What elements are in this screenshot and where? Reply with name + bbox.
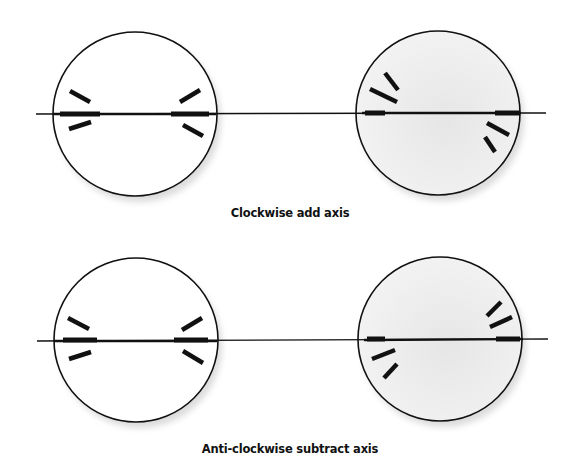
circle-before [53,32,221,202]
panel-clockwise-add [36,31,546,202]
circle-after [356,31,524,201]
panel-anticlockwise-subtract [37,257,548,428]
diagram-canvas [0,0,580,472]
circle-after [358,257,526,427]
circle-before [54,258,222,428]
caption-anticlockwise-subtract: Anti-clockwise subtract axis [0,442,580,456]
caption-clockwise-add: Clockwise add axis [0,206,580,220]
